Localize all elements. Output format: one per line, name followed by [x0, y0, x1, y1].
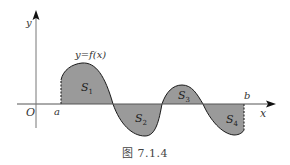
origin-label: O	[26, 107, 35, 118]
region-label-s2: S2	[135, 113, 147, 127]
figure-graphics	[0, 0, 290, 165]
bound-a-label: a	[54, 107, 60, 117]
y-axis-label: y	[26, 18, 32, 28]
region-label-s4: S4	[226, 114, 238, 128]
region-label-s3: S3	[178, 90, 190, 104]
curve-label: y=f(x)	[75, 50, 106, 60]
x-axis-label: x	[260, 108, 266, 119]
figure-caption: 图 7.1.4	[0, 144, 290, 160]
area-under-curve-figure: y x O a b y=f(x) S1 S2 S3 S4 图 7.1.4	[0, 0, 290, 165]
bound-b-label: b	[244, 91, 250, 101]
region-label-s1: S1	[81, 82, 93, 96]
